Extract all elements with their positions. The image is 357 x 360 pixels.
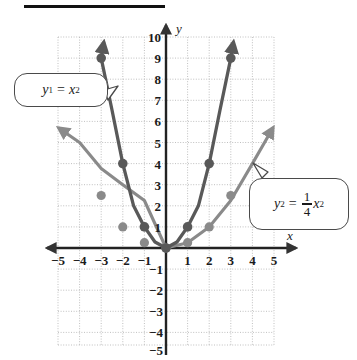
svg-text:3: 3 (155, 178, 162, 193)
formula-y1-equals: = (57, 83, 65, 97)
svg-text:8: 8 (155, 72, 162, 87)
callout-leaders (104, 86, 268, 178)
formula-y1-exponent: 2 (75, 86, 80, 95)
y-axis-label: y (174, 21, 182, 36)
leader-y2 (253, 163, 268, 178)
svg-text:2: 2 (155, 199, 162, 214)
svg-text:1: 1 (184, 253, 191, 268)
svg-text:10: 10 (148, 30, 161, 45)
svg-text:−1: −1 (149, 262, 163, 277)
svg-text:6: 6 (155, 114, 162, 129)
svg-text:5: 5 (155, 136, 162, 151)
svg-text:2: 2 (206, 253, 213, 268)
formula-y1-subscript: 1 (49, 86, 54, 95)
formula-y2-denominator: 4 (302, 205, 313, 219)
svg-text:−5: −5 (51, 253, 65, 268)
callout-y2: y2=14x2 (249, 178, 349, 230)
svg-text:4: 4 (155, 157, 162, 172)
svg-text:5: 5 (271, 253, 278, 268)
svg-text:−3: −3 (149, 304, 163, 319)
formula-y1: y1=x2 (42, 83, 79, 97)
svg-text:−4: −4 (149, 325, 163, 340)
formula-y2-exponent: 2 (319, 200, 324, 209)
svg-text:−4: −4 (73, 253, 87, 268)
svg-text:−3: −3 (94, 253, 108, 268)
figure-root: −5 −4 −3 −2 −1 1 2 3 4 5 10 9 8 7 6 5 4 … (0, 0, 357, 360)
x-tick-labels: −5 −4 −3 −2 −1 1 2 3 4 5 (51, 253, 278, 268)
svg-text:−5: −5 (149, 343, 163, 358)
svg-text:9: 9 (155, 51, 162, 66)
formula-y2-equals: = (289, 197, 297, 211)
formula-y2: y2=14x2 (274, 190, 324, 218)
y-tick-labels: 10 9 8 7 6 5 4 3 2 1 −1 −2 −3 −4 −5 (148, 30, 163, 358)
formula-y2-subscript: 2 (280, 200, 285, 209)
svg-text:7: 7 (155, 93, 162, 108)
x-axis-label: x (286, 228, 293, 243)
formula-y2-fraction: 14 (302, 190, 313, 218)
svg-text:−2: −2 (149, 283, 163, 298)
svg-text:1: 1 (155, 220, 162, 235)
svg-text:−2: −2 (116, 253, 130, 268)
callout-y1: y1=x2 (14, 73, 108, 107)
svg-text:4: 4 (249, 253, 256, 268)
svg-text:3: 3 (228, 253, 235, 268)
formula-y2-numerator: 1 (302, 190, 313, 204)
